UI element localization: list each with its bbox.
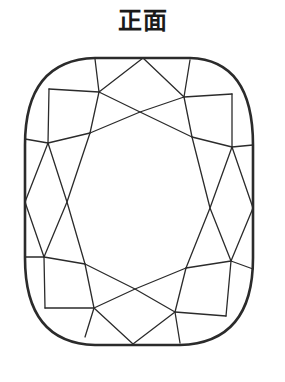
upper-facets — [25, 58, 253, 147]
lower-facets — [25, 257, 253, 344]
side-facets — [25, 133, 253, 268]
gem-outline — [25, 58, 253, 345]
cushion-cut-gem-diagram — [0, 0, 285, 382]
